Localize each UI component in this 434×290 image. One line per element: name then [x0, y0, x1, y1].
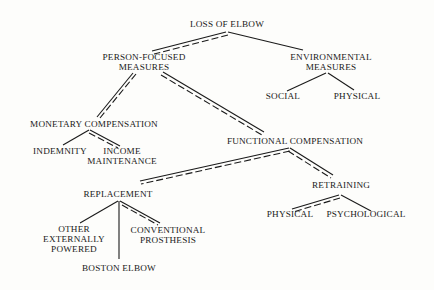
- node-label: LOSS OF ELBOW: [190, 19, 264, 29]
- node-label: PERSON-FOCUSED: [103, 52, 186, 62]
- edge-environmental-social: [287, 73, 326, 91]
- edge-environmental-physical: [328, 73, 354, 90]
- node-income-maintenance: INCOME MAINTENANCE: [87, 146, 157, 166]
- node-monetary-compensation: MONETARY COMPENSATION: [30, 119, 158, 129]
- node-label: MEASURES: [290, 62, 371, 72]
- edge-replacement-other: [80, 201, 118, 223]
- edge-person-functional: [161, 72, 264, 135]
- node-label: OTHER: [43, 224, 105, 234]
- node-label: POWERED: [43, 244, 105, 254]
- node-label: PROSTHESIS: [131, 235, 206, 245]
- node-psychological: PSYCHOLOGICAL: [326, 209, 405, 219]
- node-label: MEASURES: [103, 62, 186, 72]
- node-label: RETRAINING: [312, 180, 370, 190]
- node-indemnity: INDEMNITY: [33, 146, 87, 156]
- edge-functional-replacement: [140, 148, 290, 184]
- node-replacement: REPLACEMENT: [83, 189, 152, 199]
- node-person-focused-measures: PERSON-FOCUSED MEASURES: [103, 52, 186, 72]
- node-label: EXTERNALLY: [43, 234, 105, 244]
- node-label: FUNCTIONAL COMPENSATION: [227, 136, 363, 146]
- edge-monetary-indemnity: [63, 130, 89, 145]
- edge-root-environmental: [228, 32, 303, 50]
- node-label: PHYSICAL: [267, 209, 314, 219]
- node-label: CONVENTIONAL: [131, 225, 206, 235]
- node-retraining-physical: PHYSICAL: [267, 209, 314, 219]
- node-label: MAINTENANCE: [87, 156, 157, 166]
- node-label: REPLACEMENT: [83, 189, 152, 199]
- node-label: INCOME: [87, 146, 157, 156]
- edge-functional-retraining: [288, 148, 333, 178]
- edge-replacement-conventional: [120, 201, 160, 225]
- tree-diagram: LOSS OF ELBOW PERSON-FOCUSED MEASURES EN…: [0, 0, 434, 290]
- node-retraining: RETRAINING: [312, 180, 370, 190]
- node-functional-compensation: FUNCTIONAL COMPENSATION: [227, 136, 363, 146]
- node-social: SOCIAL: [266, 91, 300, 101]
- node-environmental-physical: PHYSICAL: [334, 91, 381, 101]
- edge-person-monetary: [97, 73, 136, 118]
- node-label: MONETARY COMPENSATION: [30, 119, 158, 129]
- node-environmental-measures: ENVIRONMENTAL MEASURES: [290, 52, 371, 72]
- node-label: PHYSICAL: [334, 91, 381, 101]
- node-loss-of-elbow: LOSS OF ELBOW: [190, 19, 264, 29]
- node-label: PSYCHOLOGICAL: [326, 209, 405, 219]
- edge-root-person: [152, 32, 228, 54]
- node-conventional-prosthesis: CONVENTIONAL PROSTHESIS: [131, 225, 206, 245]
- node-label: SOCIAL: [266, 91, 300, 101]
- node-label: INDEMNITY: [33, 146, 87, 156]
- node-boston-elbow: BOSTON ELBOW: [82, 263, 156, 273]
- node-label: BOSTON ELBOW: [82, 263, 156, 273]
- node-label: ENVIRONMENTAL: [290, 52, 371, 62]
- node-other-externally-powered: OTHER EXTERNALLY POWERED: [43, 224, 105, 254]
